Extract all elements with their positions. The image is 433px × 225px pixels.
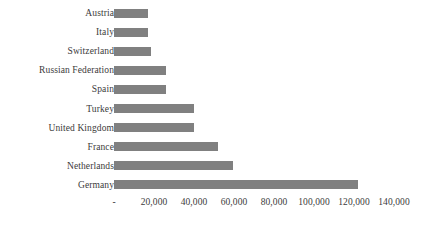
bar	[114, 85, 166, 94]
x-tick-label: 20,000	[141, 196, 168, 208]
category-label: Spain	[92, 84, 114, 94]
category-label: Germany	[78, 180, 114, 190]
bar-fill	[114, 28, 148, 37]
bar-fill	[114, 104, 194, 113]
bar-fill	[114, 123, 194, 132]
bar-fill	[114, 180, 358, 189]
category-label: Austria	[85, 8, 114, 18]
bar-fill	[114, 66, 166, 75]
x-tick-label: 40,000	[181, 196, 208, 208]
category-label: United Kingdom	[48, 123, 114, 133]
bar-fill	[114, 47, 151, 56]
bar	[114, 28, 148, 37]
bar	[114, 142, 218, 151]
category-label: France	[88, 142, 114, 152]
bar	[114, 47, 151, 56]
x-tick-label: 140,000	[378, 196, 410, 208]
bar	[114, 180, 358, 189]
bar-fill	[114, 142, 218, 151]
category-label: Netherlands	[67, 161, 114, 171]
bar	[114, 9, 148, 18]
bar	[114, 123, 194, 132]
bar	[114, 66, 166, 75]
bar-chart: AustriaItalySwitzerlandRussian Federatio…	[0, 0, 433, 225]
bar-fill	[114, 9, 148, 18]
x-tick-label: 120,000	[338, 196, 370, 208]
x-tick-label: 100,000	[298, 196, 330, 208]
category-label: Russian Federation	[39, 65, 114, 75]
category-label: Switzerland	[68, 46, 114, 56]
bar	[114, 104, 194, 113]
x-tick-label: 80,000	[261, 196, 288, 208]
x-axis: -20,00040,00060,00080,000100,000120,0001…	[0, 196, 433, 210]
bar-fill	[114, 161, 233, 170]
x-tick-label: -	[112, 196, 115, 208]
category-label: Italy	[96, 27, 114, 37]
x-tick-label: 60,000	[221, 196, 248, 208]
category-label: Turkey	[86, 104, 114, 114]
bar	[114, 161, 233, 170]
bar-fill	[114, 85, 166, 94]
plot-area: AustriaItalySwitzerlandRussian Federatio…	[0, 0, 433, 225]
